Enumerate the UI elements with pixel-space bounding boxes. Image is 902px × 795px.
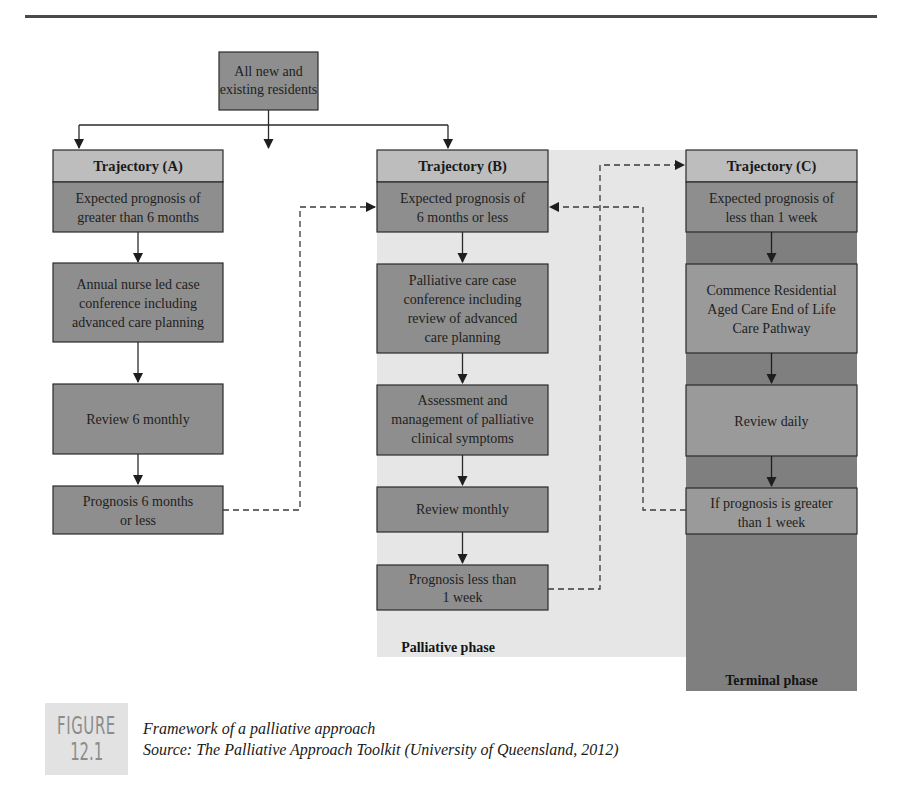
connector-a-to-b (223, 207, 375, 510)
trajectory-b-node-5-line-1: Prognosis less than (409, 572, 516, 587)
root-line-2: existing residents (220, 82, 318, 97)
palliative-phase-label: Palliative phase (401, 640, 495, 655)
trajectory-c-title: Trajectory (C) (727, 158, 817, 175)
trajectory-c-node-4-line-1: If prognosis is greater (710, 496, 833, 511)
terminal-phase-label: Terminal phase (725, 673, 817, 688)
figure-badge-number: 12.1 (70, 739, 103, 765)
trajectory-b-node-3-line-3: clinical symptoms (411, 431, 513, 446)
trajectory-b-node-1-line-1: Expected prognosis of (400, 191, 526, 206)
figure-badge-word: FIGURE (57, 713, 116, 739)
trajectory-a-node-2-line-1: Annual nurse led case (76, 277, 199, 292)
trajectory-b-node-5-line-2: 1 week (442, 590, 482, 605)
trajectory-c-node-3-line-1: Review daily (734, 414, 808, 429)
trajectory-a-node-1-line-1: Expected prognosis of (75, 191, 201, 206)
trajectory-a-title: Trajectory (A) (93, 158, 183, 175)
figure-caption: Framework of a palliative approach Sourc… (143, 718, 619, 760)
trajectory-b-node-4-line-1: Review monthly (416, 502, 509, 517)
trajectory-a-node-1-line-2: greater than 6 months (77, 210, 199, 225)
trajectory-a-node-4-line-1: Prognosis 6 months (83, 494, 193, 509)
root-line-1: All new and (234, 64, 302, 79)
trajectory-b-node-2-line-2: conference including (404, 292, 522, 307)
trajectory-a-node-4-line-2: or less (120, 513, 156, 528)
trajectory-b-column: Trajectory (B) Expected prognosis of 6 m… (377, 150, 548, 655)
root-connector (79, 110, 448, 148)
trajectory-b-node-2-line-1: Palliative care case (409, 273, 516, 288)
trajectory-c-node-1-line-1: Expected prognosis of (709, 191, 835, 206)
trajectory-c-node-2-line-2: Aged Care End of Life (707, 302, 835, 317)
trajectory-a-column: Trajectory (A) Expected prognosis of gre… (53, 150, 223, 534)
figure-source: Source: The Palliative Approach Toolkit … (143, 739, 619, 760)
trajectory-c-node-1-line-2: less than 1 week (725, 210, 817, 225)
figure-badge: FIGURE 12.1 (45, 703, 128, 775)
figure-title: Framework of a palliative approach (143, 718, 619, 739)
trajectory-b-node-2-line-4: care planning (425, 330, 501, 345)
root-node: All new and existing residents (219, 52, 318, 110)
trajectory-a-node-2-line-2: conference including (79, 296, 197, 311)
trajectory-b-node-3-line-2: management of palliative (391, 412, 533, 427)
trajectory-c-node-2-line-3: Care Pathway (732, 321, 810, 336)
trajectory-c-node-4-line-2: than 1 week (738, 515, 806, 530)
trajectory-a-node-3-line-1: Review 6 monthly (86, 412, 189, 427)
palliative-framework-diagram: All new and existing residents Trajector… (0, 0, 902, 700)
trajectory-b-node-3-line-1: Assessment and (418, 393, 508, 408)
trajectory-a-node-2-line-3: advanced care planning (72, 315, 204, 330)
trajectory-b-node-1-line-2: 6 months or less (417, 210, 508, 225)
trajectory-b-title: Trajectory (B) (418, 158, 507, 175)
trajectory-c-node-2-line-1: Commence Residential (706, 283, 836, 298)
trajectory-b-node-2-line-3: review of advanced (408, 311, 518, 326)
